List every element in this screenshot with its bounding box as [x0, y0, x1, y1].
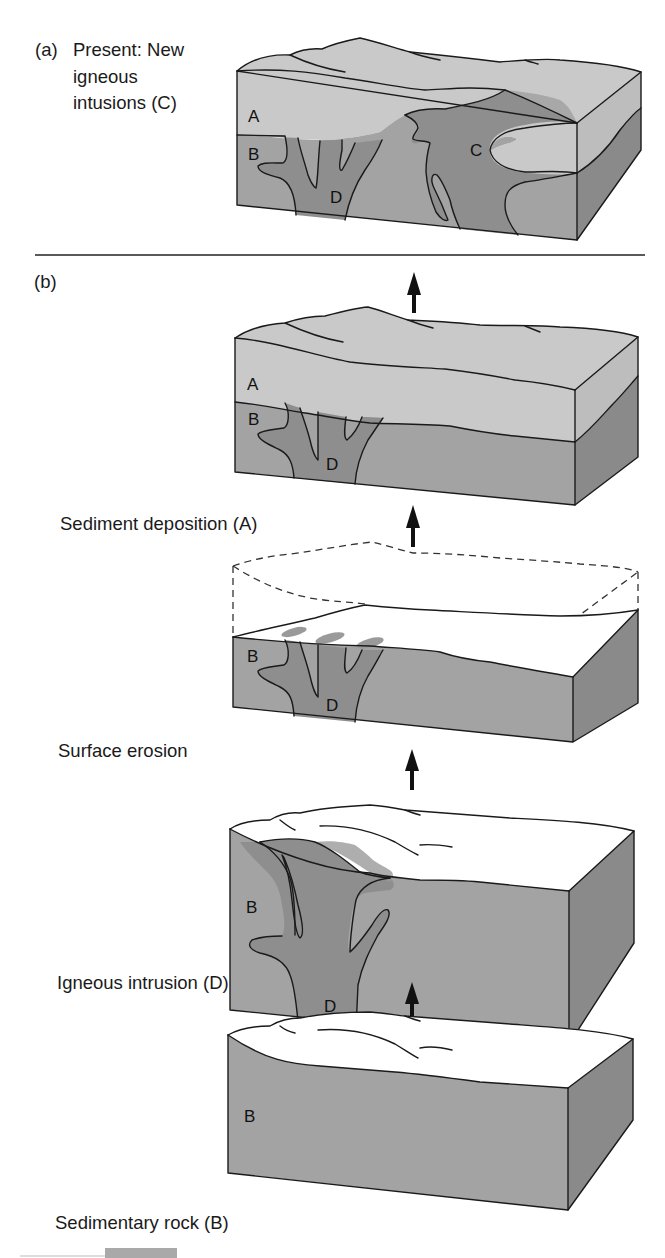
page-edge-swatch: [105, 1248, 177, 1258]
up-arrow-icon: [407, 272, 421, 313]
block-present: A B C D: [237, 38, 641, 240]
block-igneous-intrusion: B D: [230, 805, 634, 1044]
block-label-D: D: [330, 188, 342, 207]
block-label-B: B: [248, 410, 259, 429]
up-arrow-icon: [405, 749, 419, 790]
block-sediment-deposition: A B D: [235, 307, 638, 505]
panel-a-caption-line-2: igneous: [73, 66, 138, 87]
block-label-B: B: [246, 898, 257, 917]
stage-caption-surface-erosion: Surface erosion: [58, 740, 188, 761]
block-label-B: B: [248, 145, 259, 164]
panel-a-caption-line-1: Present: New: [73, 39, 185, 60]
stage-caption-sedimentary-rock: Sedimentary rock (B): [55, 1212, 229, 1233]
panel-a-marker: (a): [35, 39, 58, 60]
block-label-A: A: [247, 375, 259, 394]
panel-b-marker: (b): [34, 271, 57, 292]
block-label-A: A: [248, 107, 260, 126]
stage-caption-igneous-intrusion: Igneous intrusion (D): [57, 972, 229, 993]
block-label-B: B: [247, 647, 258, 666]
block-label-B: B: [244, 1107, 255, 1126]
panel-a-caption-line-3: intusions (C): [73, 92, 177, 113]
block-surface-erosion: B D: [233, 542, 638, 742]
panel-b: (b) A B: [34, 271, 638, 1233]
stage-caption-sediment-deposition: Sediment deposition (A): [60, 513, 257, 534]
block-label-D: D: [326, 455, 338, 474]
panel-a: (a) Present: New igneous intusions (C): [35, 38, 641, 240]
block-label-C: C: [470, 141, 482, 160]
geologic-history-diagram: (a) Present: New igneous intusions (C): [0, 0, 665, 1258]
block-label-D: D: [326, 696, 338, 715]
up-arrow-icon: [406, 505, 420, 547]
block-sedimentary-rock: B: [228, 1012, 633, 1210]
